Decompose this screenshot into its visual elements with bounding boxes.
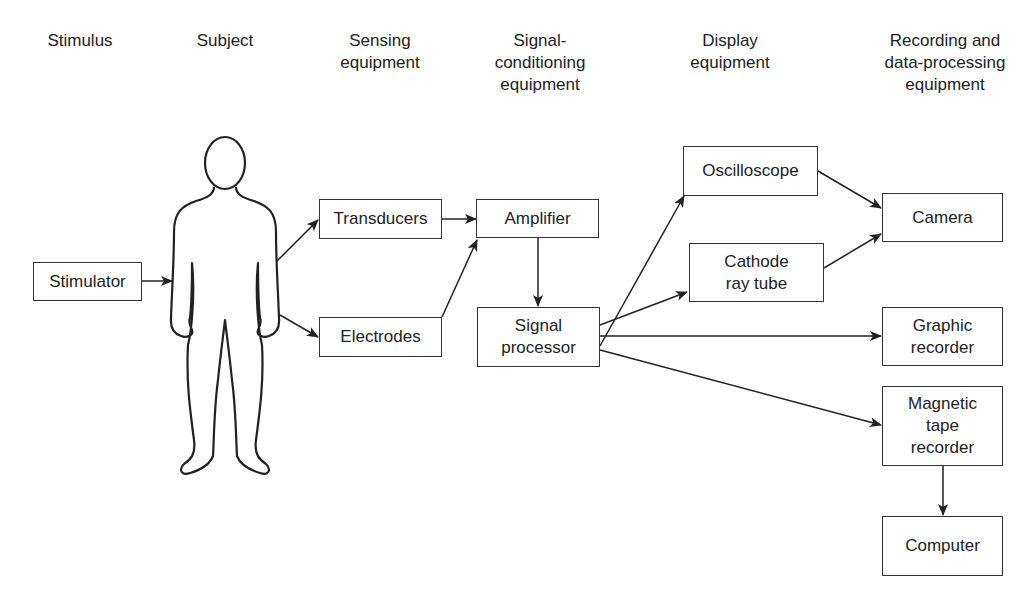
- amplifier-box: Amplifier: [476, 199, 599, 238]
- magnetic-tape-recorder-box: Magnetic tape recorder: [882, 386, 1003, 466]
- stimulator-box: Stimulator: [33, 262, 142, 301]
- cathode-ray-tube-box: Cathode ray tube: [689, 243, 824, 302]
- computer-box: Computer: [882, 516, 1003, 576]
- electrodes-box: Electrodes: [319, 317, 442, 357]
- signal-processor-box: Signal processor: [477, 307, 600, 367]
- oscilloscope-box: Oscilloscope: [683, 146, 818, 196]
- transducers-box: Transducers: [319, 199, 442, 239]
- human-figure-icon: [171, 137, 279, 474]
- connections-layer: [0, 0, 1036, 602]
- graphic-recorder-box: Graphic recorder: [882, 307, 1003, 366]
- camera-box: Camera: [882, 193, 1003, 242]
